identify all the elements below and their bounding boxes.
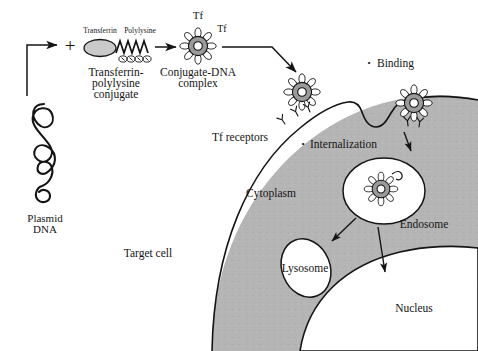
transferrin-delivery-diagram: Plasmid DNA + Transferrin Polylysine Tra… bbox=[0, 0, 478, 351]
complex-label-line2: complex bbox=[178, 77, 218, 90]
endosome-shape bbox=[343, 158, 425, 224]
complex-in-endosome bbox=[364, 172, 397, 205]
internalization-label: Internalization bbox=[310, 138, 377, 150]
transferrin-label: Transferrin bbox=[83, 26, 117, 35]
transferrin-icon bbox=[84, 40, 116, 57]
endosome-label: Endosome bbox=[400, 218, 449, 230]
bound-complex-left bbox=[284, 74, 320, 110]
cytoplasm-label: Cytoplasm bbox=[246, 187, 296, 200]
target-cell-label: Target cell bbox=[124, 247, 172, 260]
polylysine-label: Polylysine bbox=[124, 26, 156, 35]
binding-label: Binding bbox=[377, 57, 414, 70]
binding-bullet: • bbox=[367, 58, 370, 68]
diagram-canvas: Plasmid DNA + Transferrin Polylysine Tra… bbox=[0, 0, 478, 351]
plasmid-dna-label-line2: DNA bbox=[33, 223, 57, 235]
conjugate-label-line3: conjugate bbox=[94, 88, 139, 101]
tf-label-right: Tf bbox=[217, 23, 227, 34]
nucleus-label: Nucleus bbox=[395, 302, 433, 314]
tf-receptors-label: Tf receptors bbox=[212, 131, 268, 144]
internalization-bullet: • bbox=[301, 139, 304, 149]
tf-label-top: Tf bbox=[193, 9, 204, 21]
bound-complex-right bbox=[396, 85, 432, 121]
conjugate-dna-complex-icon bbox=[180, 28, 216, 64]
plus-sign: + bbox=[65, 35, 76, 56]
lysosome-label: Lysosome bbox=[282, 262, 329, 275]
